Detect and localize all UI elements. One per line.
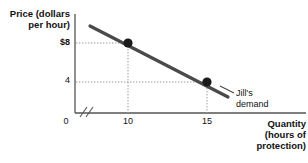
label-leader-line (220, 86, 234, 93)
data-point-10-8 (123, 38, 132, 47)
plot-area (0, 0, 308, 163)
data-point-15-4 (202, 77, 211, 86)
axis-break-marks (80, 107, 93, 117)
chart-figure: Price (dollars per hour) Quantity (hours… (0, 0, 308, 163)
